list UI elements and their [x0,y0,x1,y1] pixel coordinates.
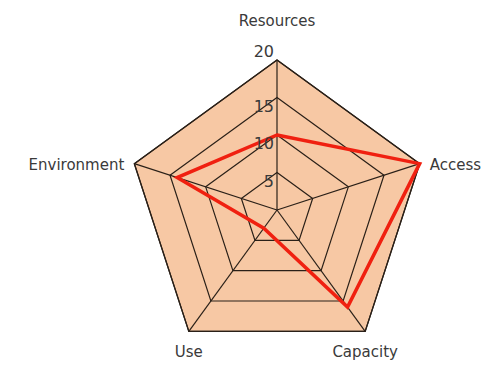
axis-label-capacity: Capacity [332,343,398,361]
radar-grid [134,60,419,331]
tick-label: 10 [254,134,274,153]
axis-label-use: Use [175,343,203,361]
tick-label: 15 [254,97,274,116]
axis-label-resources: Resources [239,12,316,30]
axis-label-environment: Environment [29,156,125,174]
radar-chart: 5101520 ResourcesAccessCapacityUseEnviro… [0,0,504,386]
tick-label: 5 [264,172,274,191]
tick-label: 20 [254,42,274,61]
axis-label-access: Access [430,156,482,174]
